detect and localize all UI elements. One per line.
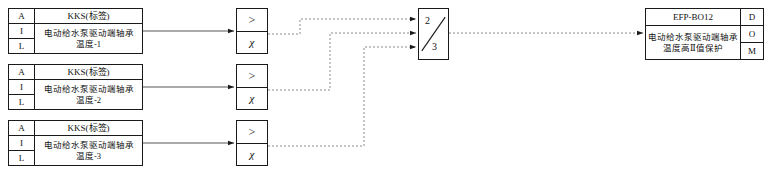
input-3-desc-line2: 温度-3	[76, 151, 101, 162]
input-1-code-l: L	[9, 38, 34, 53]
input-2-desc-line2: 温度-2	[76, 95, 101, 106]
input-3-description: 电动给水泵驱动端轴承 温度-3	[35, 136, 142, 165]
input-1-desc-line1: 电动给水泵驱动端轴承	[44, 28, 134, 39]
output-description: 电动给水泵驱动端轴承 温度高Ⅱ值保护	[646, 26, 740, 59]
output-protection-block[interactable]: EFP-BO12 电动给水泵驱动端轴承 温度高Ⅱ值保护 D O M	[645, 8, 764, 60]
input-2-code-l: L	[9, 94, 34, 109]
input-1-code-i: I	[9, 23, 34, 38]
comparator-2-variable: χ	[237, 87, 267, 110]
input-3-code-l: L	[9, 150, 34, 165]
comparator-3-operator: >	[237, 121, 267, 143]
input-1-code-column: A I L	[9, 9, 35, 53]
input-tag-block-1[interactable]: A I L KKS(标签) 电动给水泵驱动端轴承 温度-1	[8, 8, 143, 54]
logic-diagram-canvas: A I L KKS(标签) 电动给水泵驱动端轴承 温度-1 A I L KKS(…	[0, 0, 772, 176]
input-2-description: 电动给水泵驱动端轴承 温度-2	[35, 80, 142, 109]
comparator-1-operator: >	[237, 9, 267, 31]
voter-denominator: 3	[432, 42, 437, 52]
output-tag-label: EFP-BO12	[646, 9, 740, 26]
comparator-1-variable: χ	[237, 31, 267, 54]
input-2-body: KKS(标签) 电动给水泵驱动端轴承 温度-2	[35, 65, 142, 109]
input-1-body: KKS(标签) 电动给水泵驱动端轴承 温度-1	[35, 9, 142, 53]
voter-numerator: 2	[425, 16, 430, 26]
input-1-description: 电动给水泵驱动端轴承 温度-1	[35, 24, 142, 53]
voting-block-2oo3[interactable]: 2 3	[418, 8, 449, 60]
comparator-to-voter-wires	[268, 19, 416, 146]
output-code-o: O	[741, 25, 763, 42]
comparator-2-operator: >	[237, 65, 267, 87]
input-1-code-a: A	[9, 9, 34, 23]
output-code-m: M	[741, 42, 763, 59]
input-1-desc-line2: 温度-1	[76, 39, 101, 50]
output-desc-line2: 温度高Ⅱ值保护	[663, 43, 723, 54]
input-tag-block-2[interactable]: A I L KKS(标签) 电动给水泵驱动端轴承 温度-2	[8, 64, 143, 110]
input-tag-block-3[interactable]: A I L KKS(标签) 电动给水泵驱动端轴承 温度-3	[8, 120, 143, 166]
input-3-code-i: I	[9, 135, 34, 150]
comparator-3-variable: χ	[237, 143, 267, 166]
input-2-code-a: A	[9, 65, 34, 79]
comparator-block-1[interactable]: > χ	[236, 8, 268, 54]
input-1-kks-label: KKS(标签)	[35, 9, 142, 24]
comparator-block-3[interactable]: > χ	[236, 120, 268, 166]
output-code-d: D	[741, 9, 763, 25]
input-3-kks-label: KKS(标签)	[35, 121, 142, 136]
input-3-body: KKS(标签) 电动给水泵驱动端轴承 温度-3	[35, 121, 142, 165]
comparator-block-2[interactable]: > χ	[236, 64, 268, 110]
input-3-desc-line1: 电动给水泵驱动端轴承	[44, 140, 134, 151]
input-3-code-a: A	[9, 121, 34, 135]
tag-to-comparator-wires	[143, 31, 234, 143]
input-2-code-i: I	[9, 79, 34, 94]
output-main-column: EFP-BO12 电动给水泵驱动端轴承 温度高Ⅱ值保护	[646, 9, 741, 59]
output-desc-line1: 电动给水泵驱动端轴承	[648, 32, 738, 43]
input-2-desc-line1: 电动给水泵驱动端轴承	[44, 84, 134, 95]
input-2-kks-label: KKS(标签)	[35, 65, 142, 80]
output-dom-column: D O M	[741, 9, 763, 59]
input-3-code-column: A I L	[9, 121, 35, 165]
input-2-code-column: A I L	[9, 65, 35, 109]
